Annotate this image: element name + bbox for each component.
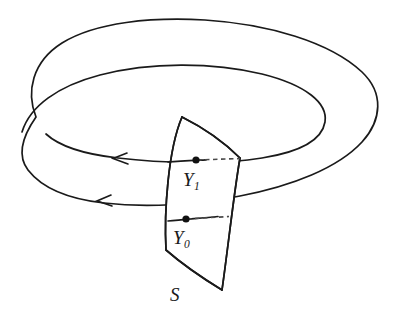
diagram-canvas: [0, 0, 397, 322]
flow-arrowheads: [97, 153, 128, 206]
label-y1-subscript: 1: [194, 180, 200, 192]
label-y1-base: Y: [183, 169, 194, 190]
label-section-s: S: [170, 285, 180, 304]
poincare-section-surface: [166, 117, 240, 290]
label-y1: Y1: [183, 170, 199, 189]
label-y0-base: Y: [173, 227, 184, 248]
point-marker-y1: [192, 156, 199, 163]
section-outline-path: [166, 117, 240, 290]
poincare-section-figure: Y1 Y0 S: [0, 0, 397, 322]
label-y0-subscript: 0: [184, 238, 190, 250]
label-y0: Y0: [173, 228, 189, 247]
point-marker-y0: [182, 215, 189, 222]
